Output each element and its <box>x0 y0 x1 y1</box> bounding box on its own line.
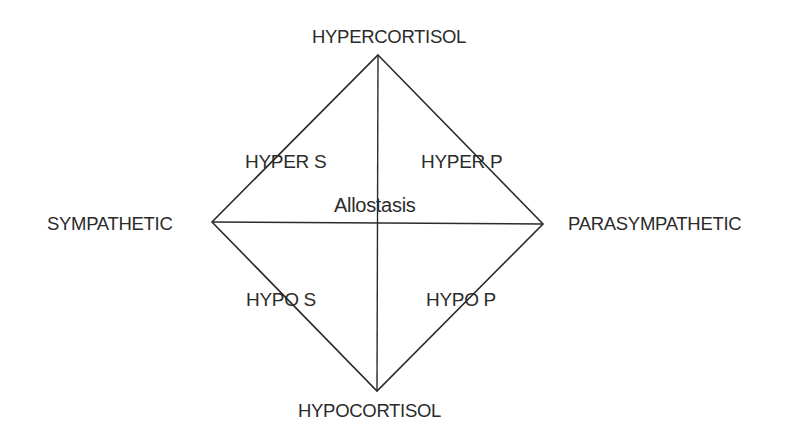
label-hypo-p: HYPO P <box>426 290 496 309</box>
label-sympathetic: SYMPATHETIC <box>47 215 173 234</box>
label-hypo-s: HYPO S <box>246 290 316 309</box>
label-hyper-s: HYPER S <box>245 152 326 171</box>
label-hyper-p: HYPER P <box>421 152 502 171</box>
label-allostasis: Allostasis <box>334 195 415 215</box>
horizontal-axis <box>212 222 543 224</box>
label-hypocortisol: HYPOCORTISOL <box>298 402 441 421</box>
label-hypercortisol: HYPERCORTISOL <box>312 28 466 47</box>
label-parasympathetic: PARASYMPATHETIC <box>568 215 741 234</box>
